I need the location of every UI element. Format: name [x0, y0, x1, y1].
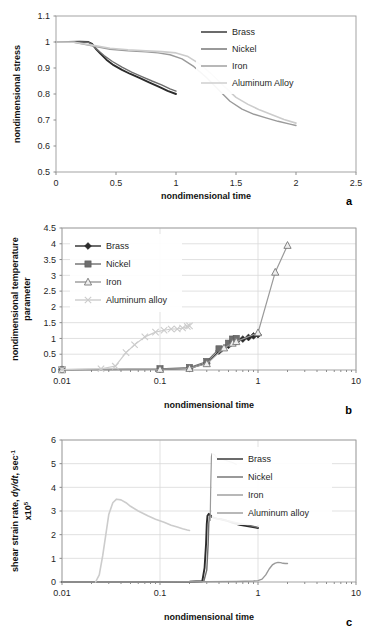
x-tick-label-b-1: 0.1 [154, 376, 167, 386]
legend-label-b-3[interactable]: Aluminum alloy [106, 295, 168, 305]
data-marker-square [85, 261, 91, 267]
legend-label-a-0[interactable]: Brass [232, 27, 256, 37]
x-tick-label-a-5: 2.5 [350, 178, 363, 188]
x-tick-label-a-3: 1.5 [230, 178, 243, 188]
legend-label-a-1[interactable]: Nickel [232, 44, 257, 54]
legend-label-a-3[interactable]: Aluminum Alloy [232, 78, 294, 88]
y-tick-label-a-6: 1.1 [37, 11, 50, 21]
y-tick-label-a-1: 0.6 [37, 141, 50, 151]
legend-label-c-2[interactable]: Iron [248, 490, 264, 500]
y-tick-label-b-1: 0.5 [43, 349, 56, 359]
x-tick-label-b-0: 0.01 [53, 376, 71, 386]
legend-label-c-0[interactable]: Brass [248, 454, 272, 464]
y-tick-label-a-4: 0.9 [37, 63, 50, 73]
panel-letter-a: a [346, 195, 353, 207]
y-tick-label-b-9: 4.5 [43, 223, 56, 233]
y-tick-label-b-6: 3 [51, 271, 56, 281]
x-tick-label-a-1: 0.5 [110, 178, 123, 188]
x-tick-label-b-3: 10 [351, 376, 361, 386]
chart-svg-c: 01234560.010.1110BrassNickelIronAluminum… [0, 424, 376, 636]
y-tick-label-b-7: 3.5 [43, 255, 56, 265]
legend-b: BrassNickelIronAluminum alloy [70, 234, 182, 312]
y-tick-label-b-4: 2 [51, 302, 56, 312]
legend-label-b-2[interactable]: Iron [106, 277, 122, 287]
y-axis-title-a: nondimensional stress [12, 45, 22, 143]
y-tick-label-c-1: 1 [51, 554, 56, 564]
legend-a: BrassNickelIronAluminum Alloy [196, 20, 324, 94]
chart-svg-b: 00.511.522.533.544.50.010.1110BrassNicke… [0, 212, 376, 424]
y-tick-label-c-0: 0 [51, 577, 56, 587]
x-tick-label-c-0: 0.01 [53, 588, 71, 598]
x-tick-label-a-4: 2 [293, 178, 298, 188]
y-tick-label-a-3: 0.8 [37, 89, 50, 99]
panel-letter-c: c [346, 616, 352, 628]
y-tick-label-a-0: 0.5 [37, 167, 50, 177]
figure-container: 0.50.60.70.80.911.100.511.522.5BrassNick… [0, 0, 376, 636]
y-axis-title-c-line2: x105 [23, 501, 33, 520]
y-tick-label-b-3: 1.5 [43, 318, 56, 328]
y-tick-label-b-2: 1 [51, 334, 56, 344]
x-axis-title-a: nondimensional time [161, 191, 251, 201]
legend-label-a-2[interactable]: Iron [232, 61, 248, 71]
y-tick-label-c-5: 5 [51, 459, 56, 469]
y-axis-title-b-line1: nondimensional temperature [10, 237, 20, 361]
legend-label-b-0[interactable]: Brass [106, 241, 130, 251]
x-tick-label-a-0: 0 [53, 178, 58, 188]
y-tick-label-c-6: 6 [51, 435, 56, 445]
x-tick-label-b-2: 1 [255, 376, 260, 386]
x-tick-label-c-3: 10 [351, 588, 361, 598]
x-tick-label-c-2: 1 [255, 588, 260, 598]
y-tick-label-c-3: 3 [51, 506, 56, 516]
x-tick-label-c-1: 0.1 [154, 588, 167, 598]
y-tick-label-b-0: 0 [51, 365, 56, 375]
legend-label-c-1[interactable]: Nickel [248, 472, 273, 482]
y-tick-label-b-8: 4 [51, 239, 56, 249]
panel-letter-b: b [345, 404, 352, 416]
legend-label-c-3[interactable]: Aluminum alloy [248, 508, 310, 518]
y-tick-label-b-5: 2.5 [43, 286, 56, 296]
y-tick-label-a-2: 0.7 [37, 115, 50, 125]
legend-label-b-1[interactable]: Nickel [106, 259, 131, 269]
y-axis-title-c-line1: shear strain rate, dγ/dt, sec-1 [10, 449, 20, 572]
chart-panel-c: 01234560.010.1110BrassNickelIronAluminum… [0, 424, 376, 636]
chart-panel-b: 00.511.522.533.544.50.010.1110BrassNicke… [0, 212, 376, 424]
x-tick-label-a-2: 1 [173, 178, 178, 188]
y-tick-label-a-5: 1 [45, 37, 50, 47]
x-axis-title-b: nondimensional time [164, 400, 254, 410]
y-tick-label-c-4: 4 [51, 483, 56, 493]
y-axis-title-b-line2: parameter [22, 277, 32, 321]
y-tick-label-c-2: 2 [51, 530, 56, 540]
chart-svg-a: 0.50.60.70.80.911.100.511.522.5BrassNick… [0, 0, 376, 212]
x-axis-title-c: nondimensional time [164, 612, 254, 622]
chart-panel-a: 0.50.60.70.80.911.100.511.522.5BrassNick… [0, 0, 376, 212]
legend-c: BrassNickelIronAluminum alloy [212, 447, 332, 525]
